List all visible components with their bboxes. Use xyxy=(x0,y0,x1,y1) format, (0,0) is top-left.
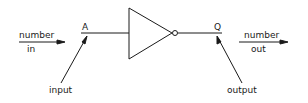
output-callout-line xyxy=(218,38,242,83)
inverter-diagram: A Q number in number out input output xyxy=(0,0,308,103)
output-callout-arrowhead xyxy=(217,36,221,44)
number-in-label-bottom: in xyxy=(27,45,35,54)
number-out-arrowhead xyxy=(280,40,288,44)
input-callout-label: input xyxy=(49,86,72,95)
pin-label-a: A xyxy=(82,23,88,32)
pin-label-q: Q xyxy=(214,23,221,32)
not-gate-triangle xyxy=(129,8,172,59)
input-callout-line xyxy=(61,38,86,83)
inversion-bubble xyxy=(173,31,178,36)
number-in-arrowhead xyxy=(57,40,65,44)
number-in-label-top: number xyxy=(19,31,54,40)
input-callout-arrowhead xyxy=(82,36,87,44)
number-out-label-top: number xyxy=(244,31,279,40)
output-callout-label: output xyxy=(227,86,257,95)
number-out-label-bottom: out xyxy=(251,45,266,54)
